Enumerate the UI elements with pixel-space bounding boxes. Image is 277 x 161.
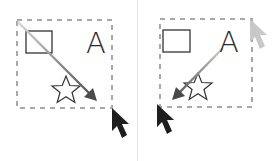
cursor-arrow-icon: [157, 104, 174, 134]
letter-a-shape[interactable]: A: [219, 28, 239, 57]
drag-direction-arrow-line: [18, 22, 91, 95]
star-shape[interactable]: [184, 73, 212, 100]
rectangle-shape[interactable]: [163, 30, 190, 52]
letter-a-shape[interactable]: A: [86, 29, 106, 58]
panel-left-drag-down-right: A: [0, 0, 137, 161]
cursor-start-ghost-icon: [250, 19, 267, 49]
panel-right-drag-down-left: A: [138, 0, 275, 161]
cursor-arrow-icon: [112, 108, 129, 138]
left-diagram-canvas: [0, 0, 137, 161]
right-diagram-canvas: [138, 0, 277, 161]
